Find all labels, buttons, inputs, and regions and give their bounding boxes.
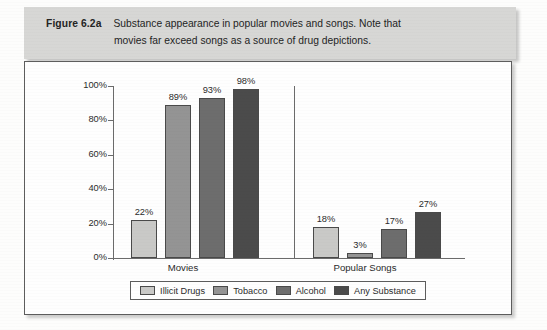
- bar: [415, 212, 441, 258]
- y-tick-label-wrap: 60%: [55, 155, 107, 165]
- y-tick-label-wrap: 20%: [55, 224, 107, 234]
- chart-container: 0%20%40%60%80%100% 22%89%93%98%18%3%17%2…: [24, 61, 512, 315]
- bar: [165, 105, 191, 258]
- legend-item: Tobacco: [213, 286, 267, 296]
- bar-value-label: 18%: [306, 214, 346, 224]
- bar: [131, 220, 157, 258]
- bar: [233, 89, 259, 258]
- caption-line-2: movies far exceed songs as a source of d…: [46, 32, 506, 49]
- y-tick-label-wrap: 100%: [55, 86, 107, 96]
- legend-swatch-icon: [334, 286, 349, 295]
- bar-value-label: 3%: [340, 240, 380, 250]
- bar-value-label: 93%: [192, 85, 232, 95]
- group-label-movies: Movies: [113, 262, 253, 273]
- legend-label: Alcohol: [296, 286, 326, 296]
- bar-value-label: 17%: [374, 216, 414, 226]
- bar-value-label: 98%: [226, 76, 266, 86]
- legend-label: Any Substance: [354, 286, 416, 296]
- y-tick-label-wrap: 80%: [55, 120, 107, 130]
- bar: [313, 227, 339, 258]
- caption-line-1: Figure 6.2aSubstance appearance in popul…: [46, 15, 506, 32]
- legend-swatch-icon: [276, 286, 291, 295]
- figure-number-label: Figure 6.2a: [46, 18, 101, 29]
- bars-layer: 22%89%93%98%18%3%17%27%: [113, 86, 465, 258]
- x-axis-line: [113, 258, 465, 259]
- bar: [199, 98, 225, 258]
- legend-item: Illicit Drugs: [140, 286, 205, 296]
- figure-page: Figure 6.2aSubstance appearance in popul…: [0, 0, 547, 330]
- legend-swatch-icon: [140, 286, 155, 295]
- y-tick-label: 0%: [55, 252, 107, 262]
- y-tick-label: 20%: [55, 218, 107, 228]
- y-tick-label: 100%: [55, 80, 107, 90]
- figure-caption-band: Figure 6.2aSubstance appearance in popul…: [24, 7, 516, 59]
- legend-swatch-icon: [213, 286, 228, 295]
- bar-chart-plot: 0%20%40%60%80%100% 22%89%93%98%18%3%17%2…: [25, 62, 513, 316]
- y-tick-label: 40%: [55, 183, 107, 193]
- legend-item: Any Substance: [334, 286, 416, 296]
- bar-value-label: 22%: [124, 207, 164, 217]
- legend-label: Illicit Drugs: [160, 286, 205, 296]
- y-tick-label-wrap: 40%: [55, 189, 107, 199]
- chart-legend: Illicit DrugsTobaccoAlcoholAny Substance: [130, 281, 426, 300]
- y-tick-mark: [108, 258, 114, 259]
- group-label-popular-songs: Popular Songs: [295, 262, 435, 273]
- legend-item: Alcohol: [276, 286, 326, 296]
- y-tick-label: 80%: [55, 114, 107, 124]
- y-tick-label-wrap: 0%: [55, 258, 107, 268]
- y-tick-label: 60%: [55, 149, 107, 159]
- bar: [381, 229, 407, 258]
- caption-text-line-1: Substance appearance in popular movies a…: [113, 18, 400, 29]
- figure-caption: Figure 6.2aSubstance appearance in popul…: [46, 15, 506, 49]
- bar: [347, 253, 373, 258]
- bar-value-label: 27%: [408, 199, 448, 209]
- legend-label: Tobacco: [233, 286, 267, 296]
